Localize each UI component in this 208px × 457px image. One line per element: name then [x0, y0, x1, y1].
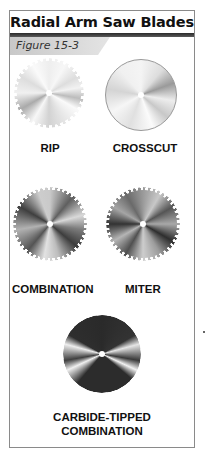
figure-title: Radial Arm Saw Blades [10, 11, 194, 33]
crosscut-blade-label: CROSSCUT [110, 142, 180, 154]
carbide-tipped-blade-image [63, 315, 141, 393]
arbor-hole [140, 221, 146, 227]
miter-blade-image [106, 187, 180, 261]
arbor-hole [47, 221, 53, 227]
rip-blade-image [14, 58, 84, 128]
title-divider-bar [10, 33, 194, 37]
miter-blade-label: MITER [125, 283, 175, 295]
carbide-blade-label-line1: CARBIDE-TIPPED [40, 411, 164, 423]
arbor-hole [46, 90, 52, 96]
rip-blade-label: RIP [30, 142, 70, 154]
carbide-blade-label-line2: COMBINATION [40, 425, 164, 437]
combination-blade-label: COMBINATION [12, 283, 102, 295]
combination-blade-image [13, 187, 87, 261]
print-speck [203, 331, 205, 333]
crosscut-blade-image [105, 59, 177, 131]
figure-number: Figure 15-3 [16, 38, 79, 54]
arbor-hole [138, 92, 144, 98]
arbor-hole [99, 351, 105, 357]
